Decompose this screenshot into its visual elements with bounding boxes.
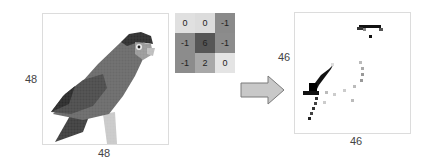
kernel-cell: 0 — [195, 13, 215, 33]
edge-map-image — [295, 13, 410, 133]
arrow-right-icon — [240, 75, 286, 105]
kernel-cell: -1 — [175, 53, 195, 73]
kernel-cell: -1 — [175, 33, 195, 53]
kernel-cell: 2 — [195, 53, 215, 73]
output-height-label: 46 — [278, 51, 290, 63]
kernel-cell: 0 — [215, 53, 235, 73]
convolution-kernel: 0 0 -1 -1 6 -1 -1 2 0 — [175, 13, 235, 73]
output-width-label: 46 — [350, 135, 362, 147]
parrot-image — [43, 14, 168, 144]
kernel-cell: 0 — [175, 13, 195, 33]
input-height-label: 48 — [25, 73, 37, 85]
kernel-cell: 6 — [195, 33, 215, 53]
output-image-frame — [294, 12, 411, 134]
kernel-cell: -1 — [215, 13, 235, 33]
input-width-label: 48 — [98, 147, 110, 159]
kernel-cell: -1 — [215, 33, 235, 53]
input-image-frame — [42, 13, 169, 145]
